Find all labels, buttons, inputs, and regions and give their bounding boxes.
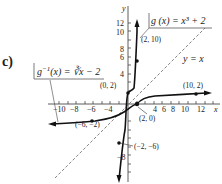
point-2-0 — [135, 102, 139, 106]
point-label: (2, 10) — [141, 35, 161, 44]
point-0-2 — [126, 91, 130, 95]
x-tick-label: −6 — [87, 105, 96, 114]
x-tick-label: −8 — [70, 105, 79, 114]
y-tick-label: 6 — [120, 53, 124, 62]
point-label: (10, 2) — [183, 81, 203, 90]
x-tick-label: 10 — [181, 105, 189, 114]
x-tick-label: 4 — [153, 105, 157, 114]
point-2-10 — [135, 59, 139, 63]
y-tick-label: 12 — [116, 19, 124, 28]
yx-label: y = x — [182, 53, 204, 64]
point-label: (−6, −2) — [75, 120, 100, 129]
arrow-up-icon — [135, 19, 140, 27]
leader-line — [138, 107, 147, 114]
ginv-equation: g−1(x) = ∛x − 2 — [37, 65, 100, 78]
point-label: (2, 0) — [139, 114, 156, 123]
y-axis-label: y — [121, 4, 126, 13]
x-axis-label: x — [213, 105, 218, 114]
y-ticks — [128, 23, 131, 172]
point-10-2 — [194, 92, 198, 96]
arrow-left-icon — [48, 122, 56, 127]
x-tick-label: 12 — [197, 105, 205, 114]
arrow-right-icon — [204, 91, 212, 96]
point-label: (0, 2) — [100, 81, 117, 90]
arrow-down-icon — [117, 175, 122, 183]
point-label: (−2, −6) — [134, 142, 159, 151]
y-tick-label: 10 — [116, 28, 124, 37]
x-tick-label: 8 — [171, 105, 175, 114]
leader-line — [50, 80, 58, 122]
x-tick-label: 6 — [162, 105, 166, 114]
function-graph: c) x y −10 −8 −6 −4 4 6 8 10 12 12 10 8 … — [0, 0, 222, 184]
part-label: c) — [2, 54, 13, 70]
g-equation: g (x) = x³ + 2 — [151, 15, 206, 27]
line-y-equals-x — [55, 28, 205, 178]
x-tick-label: −4 — [104, 105, 113, 114]
y-tick-label: 4 — [120, 70, 124, 79]
